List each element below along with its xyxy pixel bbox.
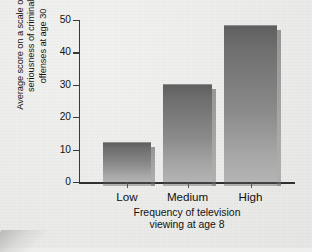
y-tick-mark [73,182,79,183]
y-tick-label: 50 [60,15,71,25]
y-axis-line [79,20,80,183]
y-tick-mark [73,20,79,21]
bar-high [224,25,277,182]
y-tick-label: 30 [60,80,71,90]
y-tick-mark [73,117,79,118]
y-tick-mark [73,52,79,53]
bar-medium [163,84,212,182]
y-tick-label: 20 [60,112,71,122]
plot-area: 01020304050 LowMediumHigh [79,20,295,182]
category-label-low: Low [116,190,137,203]
y-tick-label: 0 [65,177,71,187]
y-tick-label: 40 [60,47,71,57]
category-label-high: High [239,190,263,203]
y-tick-mark [73,150,79,151]
y-axis-title: Average score on a scale of the seriousn… [15,0,49,141]
y-tick-mark [73,85,79,86]
y-tick-label: 10 [60,145,71,155]
x-axis-title: Frequency of television viewing at age 8 [79,207,295,232]
bar-low [103,142,151,182]
category-label-medium: Medium [167,190,208,203]
